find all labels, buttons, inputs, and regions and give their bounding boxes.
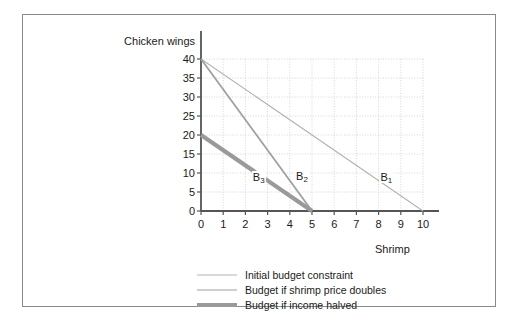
curve-label-b1: B1 xyxy=(379,171,393,183)
legend-label: Initial budget constraint xyxy=(245,269,353,281)
legend-label: Budget if income halved xyxy=(245,299,357,311)
x-tick-1: 1 xyxy=(220,211,226,230)
data-lines xyxy=(179,59,425,227)
legend-item: Budget if shrimp price doubles xyxy=(197,282,386,297)
figure-panel: Chicken wings Shrimp 0510152025303540 01… xyxy=(22,14,496,307)
y-axis-title: Chicken wings xyxy=(119,35,195,48)
y-tick-5: 5 xyxy=(189,186,201,198)
legend-line-swatch xyxy=(197,300,237,310)
x-tick-0: 0 xyxy=(198,211,204,230)
x-tick-8: 8 xyxy=(376,211,382,230)
legend-label: Budget if shrimp price doubles xyxy=(245,284,386,296)
legend-item: Initial budget constraint xyxy=(197,267,386,282)
y-tick-25: 25 xyxy=(183,110,201,122)
x-tick-3: 3 xyxy=(265,211,271,230)
curve-label-b2: B2 xyxy=(295,170,309,182)
x-tick-9: 9 xyxy=(398,211,404,230)
x-tick-4: 4 xyxy=(287,211,293,230)
x-tick-6: 6 xyxy=(331,211,337,230)
y-tick-30: 30 xyxy=(183,91,201,103)
x-tick-10: 10 xyxy=(417,211,429,230)
y-tick-10: 10 xyxy=(183,167,201,179)
x-tick-2: 2 xyxy=(242,211,248,230)
legend-line-swatch xyxy=(197,270,237,280)
y-tick-40: 40 xyxy=(183,53,201,65)
y-tick-35: 35 xyxy=(183,72,201,84)
plot-area: 0510152025303540 012345678910 B1B2B3 xyxy=(179,59,425,227)
legend-item: Budget if income halved xyxy=(197,297,386,312)
x-tick-7: 7 xyxy=(353,211,359,230)
legend: Initial budget constraintBudget if shrim… xyxy=(197,267,386,312)
y-tick-20: 20 xyxy=(183,129,201,141)
x-tick-5: 5 xyxy=(309,211,315,230)
y-tick-15: 15 xyxy=(183,148,201,160)
curve-label-b3: B3 xyxy=(252,171,266,183)
legend-line-swatch xyxy=(197,285,237,295)
x-axis-title: Shrimp xyxy=(375,243,410,255)
